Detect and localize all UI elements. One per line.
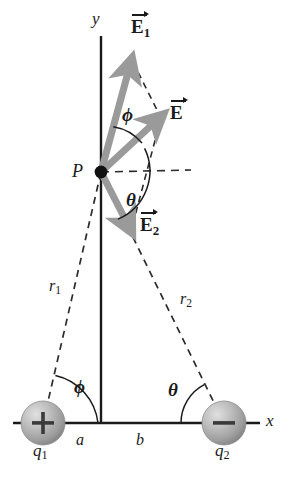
vector-E2-arrow [101, 172, 127, 223]
angle-arc-theta-at-q2 [181, 385, 204, 423]
horizontal-reference-dashed-line [101, 170, 191, 172]
parallelogram-side-e1-to-e [133, 62, 161, 118]
charge-q1-label: q1 [33, 442, 48, 462]
charge-q2-label: q2 [215, 442, 230, 462]
angle-theta-at-p-label: θ [126, 190, 136, 209]
distance-r2-label: r2 [180, 291, 192, 310]
axis-lines [13, 36, 260, 423]
point-p-dot [95, 166, 108, 179]
vector-E1-label-text: E1 [131, 16, 150, 41]
angle-phi-at-q1-label: ϕ [74, 377, 85, 396]
vector-E2-label-text: E2 [140, 214, 159, 239]
y-axis-label: y [92, 10, 100, 27]
distance-b-label: b [136, 432, 144, 448]
x-axis-label: x [266, 412, 274, 429]
charge-sphere-q1 [21, 401, 65, 445]
angle-theta-at-q2-label: θ [168, 380, 178, 399]
r1-dashed-line [43, 172, 101, 423]
vector-E-label: E [170, 96, 183, 127]
distance-a-label: a [76, 432, 84, 448]
vector-E-label-text: E [170, 102, 183, 127]
distance-r1-label: r1 [49, 278, 61, 297]
physics-diagram-figure: y x P E1 E E2 ϕ θ r1 r2 a b ϕ θ q1 q2 [0, 0, 291, 491]
vector-E2-arrow-overbar [140, 208, 159, 215]
point-p-label: P [72, 162, 83, 180]
vector-E1-arrow-overbar [131, 10, 150, 17]
angle-phi-at-p-label: ϕ [122, 105, 133, 124]
vector-E-arrow-overbar [170, 96, 183, 103]
minus-sign-horizontal [213, 421, 235, 425]
vector-E2-label: E2 [140, 208, 159, 239]
charge-sphere-q2 [202, 401, 246, 445]
vector-E1-label: E1 [131, 10, 150, 41]
plus-sign-vertical [41, 412, 45, 434]
diagram-canvas [0, 0, 291, 491]
